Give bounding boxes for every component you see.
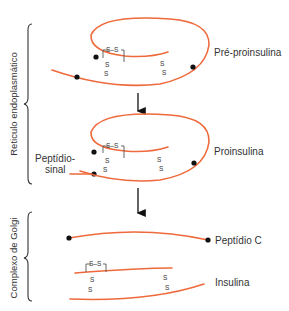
svg-text:S: S [163,274,168,281]
svg-text:S: S [88,286,93,293]
c-peptide-label: Peptídio C [215,235,262,246]
cleavage-dot [74,74,79,79]
svg-text:S: S [90,276,95,283]
svg-text:S–S: S–S [106,142,119,149]
signal-peptide-label-2: sinal [45,164,66,175]
svg-text:S: S [157,156,162,163]
svg-text:S: S [105,61,110,68]
svg-text:S–S: S–S [106,46,119,53]
svg-text:S: S [162,69,167,76]
er-brace [24,24,32,184]
er-label: Reticulo endoplasmático [8,52,19,156]
cleavage-dot [190,64,195,69]
golgi-brace [24,212,32,301]
svg-text:S: S [160,60,165,67]
svg-text:S: S [104,70,109,77]
svg-text:S: S [165,284,170,291]
preproinsulin-structure: S–S S S S S [52,18,209,85]
insulin-structure: S–S S S S S [70,260,204,299]
svg-text:S: S [159,165,164,172]
proinsulin-label: Proinsulina [214,146,264,157]
insulin-label: Insulina [215,277,250,288]
signal-peptide-label-1: Peptídio- [35,153,75,164]
insulin-synthesis-diagram: Reticulo endoplasmático Complexo de Golg… [0,0,289,311]
svg-text:S–S: S–S [89,260,102,267]
cleavage-dot [93,54,98,59]
svg-text:S: S [105,157,110,164]
proinsulin-structure: S–S S S S S [70,114,209,181]
svg-text:S: S [103,166,108,173]
preproinsulin-label: Pré-proinsulina [214,47,282,58]
golgi-label: Complexo de Golgi [8,218,19,299]
c-peptide-structure [66,232,210,243]
